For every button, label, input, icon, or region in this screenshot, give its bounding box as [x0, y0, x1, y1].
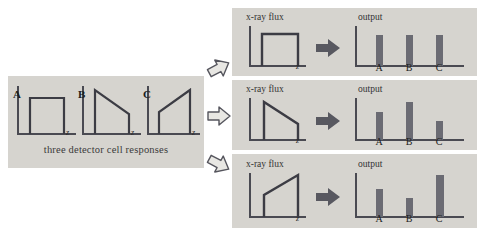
detector-response-caption: three detector cell responses [8, 144, 204, 155]
block-arrow-row3-icon [316, 188, 340, 206]
block-arrow-row2-icon [316, 112, 340, 130]
output-title-row1: output [358, 12, 382, 22]
bar-b [406, 102, 413, 140]
row-decreasing: x-ray flux output z A B C [232, 80, 477, 150]
output-chart-uniform [356, 26, 464, 66]
bar-label-c-row1: C [432, 62, 446, 73]
bar-label-b-row2: B [402, 136, 416, 147]
response-plot-b [83, 86, 141, 134]
flux-axis-label-row3: z [296, 214, 299, 223]
flux-title-row1: x-ray flux [246, 12, 284, 22]
row-increasing: x-ray flux output z A B C [232, 154, 477, 228]
bar-label-c-row3: C [432, 213, 446, 224]
response-label-b: B [78, 88, 85, 100]
flux-plot-increasing [250, 173, 306, 217]
hollow-arrow-down-right-icon [206, 152, 232, 176]
response-label-a: A [13, 88, 21, 100]
block-arrow-row1-icon [316, 39, 340, 57]
output-title-row2: output [358, 84, 382, 94]
bar-label-a-row2: A [372, 136, 386, 147]
bar-c [436, 175, 444, 217]
output-title-row3: output [358, 159, 382, 169]
hollow-arrow-right-icon [206, 104, 232, 128]
bar-label-a-row3: A [372, 213, 386, 224]
flux-title-row3: x-ray flux [246, 159, 284, 169]
bar-label-b-row1: B [402, 62, 416, 73]
flux-axis-label-row2: z [296, 136, 299, 145]
output-chart-increasing [356, 173, 464, 217]
row-uniform: x-ray flux output z A B C [232, 8, 477, 76]
bar-label-a-row1: A [372, 62, 386, 73]
response-plot-c [148, 86, 200, 134]
response-plot-a [18, 86, 76, 134]
output-chart-decreasing [356, 98, 464, 140]
detector-response-panel: A B C z z z three detector cell response… [8, 76, 204, 168]
flux-axis-label-row1: z [296, 62, 299, 71]
axis-label-z-a: z [66, 128, 69, 137]
response-label-c: C [143, 88, 151, 100]
bar-label-b-row3: B [402, 213, 416, 224]
bar-label-c-row2: C [432, 136, 446, 147]
axis-label-z-c: z [192, 128, 195, 137]
hollow-arrow-up-right-icon [206, 56, 232, 80]
detector-response-plots [8, 76, 204, 146]
flux-plot-decreasing [250, 98, 306, 140]
flux-title-row2: x-ray flux [246, 84, 284, 94]
flux-plot-uniform [250, 26, 306, 66]
axis-label-z-b: z [131, 128, 134, 137]
figure-canvas: A B C z z z three detector cell response… [0, 0, 481, 236]
